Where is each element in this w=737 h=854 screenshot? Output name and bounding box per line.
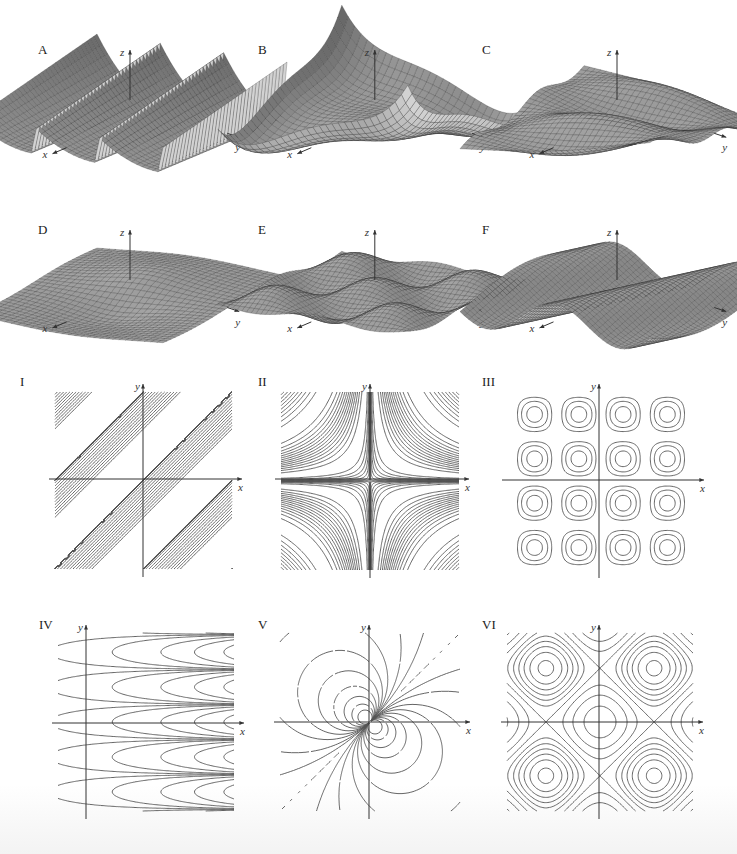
svg-text:x: x [239, 725, 245, 737]
surface-panel-c: C zxy [487, 40, 737, 180]
svg-text:y: y [134, 380, 140, 392]
y-axis: y [227, 308, 240, 328]
svg-text:y: y [77, 621, 83, 633]
svg-text:y: y [361, 380, 367, 392]
svg-text:z: z [364, 226, 370, 238]
svg-text:x: x [699, 482, 705, 494]
contour-vi-plot: xy [480, 600, 737, 854]
svg-text:x: x [237, 481, 243, 493]
surface-panel-e: E zxy [250, 220, 490, 350]
x-axis: x [501, 720, 704, 736]
x-axis: x [286, 322, 311, 334]
surface-c-plot: zxy [487, 40, 737, 180]
x-axis: x [42, 148, 67, 160]
y-axis: y [77, 621, 88, 819]
svg-text:x: x [42, 148, 48, 160]
surface-panel-b: B zxy [250, 40, 490, 180]
svg-text:x: x [286, 322, 292, 334]
x-axis: x [52, 721, 245, 737]
svg-text:y: y [721, 141, 727, 153]
svg-text:z: z [119, 46, 125, 58]
surface-mesh [460, 66, 737, 156]
surface-panel-f: F zxy [487, 220, 737, 350]
contour-panel-iv: IV xy [0, 600, 250, 854]
x-axis: x [529, 322, 554, 334]
svg-text:y: y [234, 316, 240, 328]
contour-iv-plot: xy [0, 600, 250, 854]
contour-lines [58, 633, 234, 811]
svg-text:x: x [698, 724, 704, 736]
contour-iii-plot: xy [480, 350, 737, 580]
x-axis: x [286, 148, 311, 160]
surface-d-plot: zxy [0, 220, 250, 350]
contour-panel-iii: III xy [480, 350, 737, 580]
svg-text:y: y [590, 621, 596, 633]
surface-panel-d: D zxy [0, 220, 250, 350]
surface-a-plot: zxy [0, 40, 250, 180]
contour-v-plot: xy [250, 600, 490, 854]
svg-text:y: y [360, 621, 366, 633]
svg-text:x: x [529, 148, 535, 160]
surface-f-plot: zxy [487, 220, 737, 350]
svg-text:z: z [606, 46, 612, 58]
svg-text:x: x [464, 481, 470, 493]
svg-text:z: z [119, 226, 125, 238]
svg-text:x: x [465, 724, 471, 736]
svg-text:x: x [286, 148, 292, 160]
svg-text:x: x [529, 322, 535, 334]
contour-panel-v: V xy [250, 600, 490, 854]
contour-panel-i: I xy [20, 350, 250, 580]
contour-panel-vi: VI xy [480, 600, 737, 854]
svg-text:x: x [42, 322, 48, 334]
y-axis: y [714, 133, 727, 153]
surface-mesh [460, 242, 737, 349]
surface-e-plot: zxy [250, 220, 490, 350]
surface-panel-a: A zxy [0, 40, 250, 180]
svg-text:y: y [721, 316, 727, 328]
contour-i-plot: xy [20, 350, 250, 580]
contour-lines [518, 397, 685, 564]
y-axis: y [360, 621, 371, 819]
svg-text:z: z [364, 46, 370, 58]
svg-text:y: y [590, 380, 596, 392]
contour-panel-ii: II xy [250, 350, 490, 580]
svg-text:z: z [606, 226, 612, 238]
contour-ii-plot: xy [250, 350, 490, 580]
surface-b-plot: zxy [250, 40, 490, 180]
